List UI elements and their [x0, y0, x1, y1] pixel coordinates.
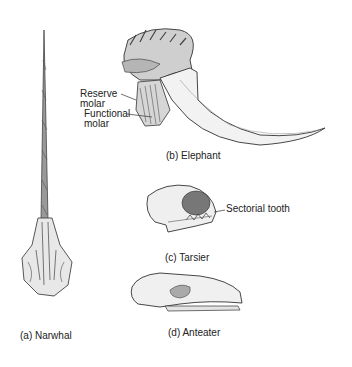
callout-functional-molar-line2: molar	[84, 118, 109, 129]
tooth-specialization-figure: Reserve molar Functional molar (b) Eleph…	[0, 0, 352, 367]
caption-tarsier: (c) Tarsier	[165, 252, 209, 263]
anteater-skull-drawing	[131, 273, 242, 311]
narwhal-skull-drawing	[22, 30, 72, 296]
elephant-skull-drawing	[121, 29, 325, 145]
tarsier-skull-drawing	[147, 185, 225, 232]
caption-narwhal: (a) Narwhal	[20, 330, 72, 341]
skull-illustrations	[0, 0, 352, 367]
caption-anteater: (d) Anteater	[168, 327, 220, 338]
caption-elephant: (b) Elephant	[166, 150, 220, 161]
callout-sectorial-tooth: Sectorial tooth	[226, 203, 290, 214]
